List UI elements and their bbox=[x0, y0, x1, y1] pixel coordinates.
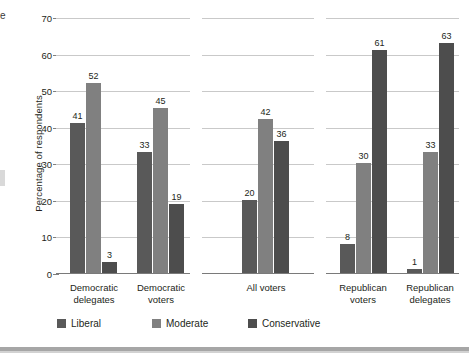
all-voters-panel: 20 42 36 All voters bbox=[202, 18, 314, 274]
legend-item-conservative[interactable]: Conservative bbox=[248, 316, 320, 330]
axis-baseline bbox=[326, 273, 459, 274]
bar-democratic-voters-liberal: 33 bbox=[137, 152, 152, 273]
bar-value-label: 19 bbox=[171, 192, 181, 202]
republican-panel: 8 30 61 1 33 63 Republican bbox=[326, 18, 459, 274]
democratic-panel: 41 52 3 33 45 19 Democratic bbox=[56, 18, 190, 274]
legend-item-moderate[interactable]: Moderate bbox=[152, 316, 208, 330]
y-tick-label-40: 40 bbox=[30, 122, 52, 133]
category-label-line2: voters bbox=[118, 294, 204, 306]
bar-value-label: 20 bbox=[244, 188, 254, 198]
bar-value-label: 8 bbox=[345, 232, 350, 242]
bar-value-label: 45 bbox=[155, 96, 165, 106]
legend-label-moderate: Moderate bbox=[166, 318, 208, 329]
bar-value-label: 1 bbox=[412, 257, 417, 267]
bar-republican-voters-moderate: 30 bbox=[356, 163, 371, 273]
legend-swatch-moderate-icon bbox=[152, 319, 161, 328]
category-label-republican-delegates: Republican delegates bbox=[387, 282, 469, 305]
bar-democratic-voters-moderate: 45 bbox=[153, 108, 168, 273]
axis-baseline bbox=[202, 273, 314, 274]
bar-group-all-voters: 20 42 36 bbox=[202, 17, 314, 273]
category-label-line1: Democratic bbox=[118, 282, 204, 294]
y-tick-label-30: 30 bbox=[30, 159, 52, 170]
bar-value-label: 3 bbox=[107, 250, 112, 260]
y-tick-label-20: 20 bbox=[30, 195, 52, 206]
bar-democratic-delegates-moderate: 52 bbox=[86, 83, 101, 273]
bar-value-label: 42 bbox=[260, 107, 270, 117]
bar-democratic-voters-conservative: 19 bbox=[169, 204, 184, 274]
y-tick-label-0: 0 bbox=[30, 269, 52, 280]
footer-divider-shadow bbox=[0, 351, 469, 353]
category-label-line1: Republican bbox=[387, 282, 469, 294]
bar-value-label: 52 bbox=[88, 71, 98, 81]
chart-figure: e Percentage of respondents 0 10 20 30 4… bbox=[0, 0, 469, 357]
plot-area: 0 10 20 30 40 50 60 70 41 bbox=[56, 18, 459, 274]
y-axis-title: Percentage of respondents bbox=[33, 54, 44, 254]
bar-democratic-delegates-conservative: 3 bbox=[102, 262, 117, 273]
bar-value-label: 36 bbox=[276, 129, 286, 139]
bar-all-voters-conservative: 36 bbox=[274, 141, 289, 273]
legend-item-liberal[interactable]: Liberal bbox=[57, 316, 101, 330]
legend-swatch-liberal-icon bbox=[57, 319, 66, 328]
bar-democratic-delegates-liberal: 41 bbox=[70, 123, 85, 273]
y-tick-label-70: 70 bbox=[30, 13, 52, 24]
bar-all-voters-moderate: 42 bbox=[258, 119, 273, 273]
legend-label-conservative: Conservative bbox=[262, 318, 320, 329]
bar-republican-voters-conservative: 61 bbox=[372, 50, 387, 273]
y-tick-label-10: 10 bbox=[30, 232, 52, 243]
bar-republican-delegates-liberal: 1 bbox=[407, 269, 422, 273]
bar-value-label: 63 bbox=[441, 31, 451, 41]
category-label-democratic-voters: Democratic voters bbox=[118, 282, 204, 305]
bar-group-democratic-delegates: 41 52 3 33 45 19 bbox=[56, 17, 190, 273]
bar-value-label: 33 bbox=[139, 140, 149, 150]
bar-value-label: 41 bbox=[72, 111, 82, 121]
bar-republican-delegates-conservative: 63 bbox=[439, 43, 454, 273]
cropped-text-stub: e bbox=[0, 10, 8, 21]
bar-value-label: 30 bbox=[358, 151, 368, 161]
category-label-line2: delegates bbox=[387, 294, 469, 306]
axis-baseline bbox=[56, 273, 190, 274]
category-label-line1: All voters bbox=[223, 282, 309, 294]
y-tick-label-50: 50 bbox=[30, 86, 52, 97]
bar-republican-delegates-moderate: 33 bbox=[423, 152, 438, 273]
legend-label-liberal: Liberal bbox=[71, 318, 101, 329]
bar-value-label: 33 bbox=[425, 140, 435, 150]
bar-group-republican-voters: 8 30 61 1 33 63 bbox=[326, 17, 459, 273]
bar-republican-voters-liberal: 8 bbox=[340, 244, 355, 273]
y-tick-label-60: 60 bbox=[30, 49, 52, 60]
legend-swatch-conservative-icon bbox=[248, 319, 257, 328]
y-tick-mark-0 bbox=[53, 274, 59, 275]
category-label-all-voters: All voters bbox=[223, 282, 309, 294]
bar-all-voters-liberal: 20 bbox=[242, 200, 257, 273]
chart-legend: Liberal Moderate Conservative bbox=[0, 316, 469, 330]
left-edge-marker bbox=[0, 170, 5, 186]
bar-value-label: 61 bbox=[374, 38, 384, 48]
